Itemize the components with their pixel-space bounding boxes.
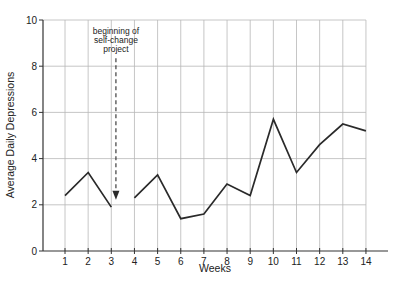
x-axis-title: Weeks	[199, 262, 231, 274]
x-tick-label: 4	[132, 256, 138, 267]
y-axis-ticks: 0246810	[26, 15, 43, 257]
x-tick-label: 13	[337, 256, 349, 267]
x-tick-label: 5	[155, 256, 161, 267]
y-tick-label: 4	[31, 153, 37, 164]
x-tick-label: 6	[178, 256, 184, 267]
x-tick-label: 11	[291, 256, 302, 267]
y-axis-title: Average Daily Depressions	[4, 72, 16, 198]
y-tick-label: 8	[31, 61, 37, 72]
axes	[43, 20, 388, 251]
y-tick-label: 6	[31, 107, 37, 118]
x-tick-label: 2	[85, 256, 91, 267]
x-tick-label: 12	[314, 256, 326, 267]
arrow-head-icon	[112, 191, 119, 200]
x-tick-label: 10	[268, 256, 280, 267]
x-tick-label: 14	[360, 256, 372, 267]
annotation-text: project	[103, 44, 129, 54]
x-tick-label: 9	[247, 256, 253, 267]
grid-lines	[43, 20, 366, 251]
line-chart: 0246810 1234567891011121314 beginning of…	[0, 0, 401, 288]
x-tick-label: 1	[62, 256, 68, 267]
annotation-self-change: beginning ofself-changeproject	[93, 26, 140, 200]
y-tick-label: 10	[26, 15, 38, 26]
y-tick-label: 2	[31, 199, 37, 210]
y-tick-label: 0	[31, 246, 37, 257]
data-series	[65, 119, 366, 218]
x-tick-label: 3	[109, 256, 115, 267]
